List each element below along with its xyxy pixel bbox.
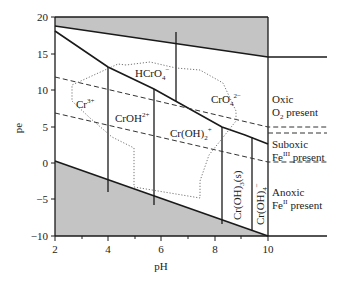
svg-text:10: 10 <box>37 84 49 96</box>
svg-text:6: 6 <box>158 243 164 255</box>
species-croh: CrOH2+ <box>115 111 149 124</box>
x-ticks <box>55 236 268 241</box>
species-croh3: Cr(OH)3(s) <box>231 170 246 220</box>
species-cr3: Cr3+ <box>76 97 95 110</box>
svg-text:8: 8 <box>212 243 218 255</box>
svg-text:4: 4 <box>105 243 111 255</box>
y-tick-labels: 20 15 10 5 0 −5 −10 <box>31 11 49 242</box>
svg-text:−5: −5 <box>36 193 48 205</box>
svg-text:Oxic: Oxic <box>272 93 294 105</box>
svg-text:20: 20 <box>37 11 49 23</box>
svg-text:Anoxic: Anoxic <box>272 186 305 198</box>
svg-text:0: 0 <box>43 157 49 169</box>
svg-text:O2 present: O2 present <box>272 106 318 121</box>
pe-ph-diagram: 20 15 10 5 0 −5 −10 pe 2 4 6 8 10 pH HCr… <box>0 0 342 288</box>
species-croh4: Cr(OH)4− <box>253 183 269 225</box>
zone-anoxic: Anoxic FeII present <box>272 186 322 211</box>
species-croh2: Cr(OH)2+ <box>170 126 212 142</box>
svg-text:FeIII present: FeIII present <box>272 150 325 163</box>
svg-text:FeII present: FeII present <box>272 198 322 211</box>
svg-text:5: 5 <box>43 121 49 133</box>
x-tick-labels: 2 4 6 8 10 <box>52 243 274 255</box>
svg-text:2: 2 <box>52 243 58 255</box>
zone-oxic: Oxic O2 present <box>272 93 318 121</box>
species-hcro4: HCrO4− <box>135 66 169 82</box>
svg-text:10: 10 <box>263 243 275 255</box>
y-axis-label: pe <box>12 123 24 134</box>
zone-suboxic: Suboxic FeIII present <box>272 138 325 163</box>
svg-text:−10: −10 <box>31 230 49 242</box>
svg-text:Suboxic: Suboxic <box>272 138 308 150</box>
upper-unstable-region <box>55 17 268 57</box>
species-cro4: CrO42− <box>211 92 241 108</box>
x-axis-label: pH <box>154 260 168 272</box>
svg-text:15: 15 <box>37 48 49 60</box>
